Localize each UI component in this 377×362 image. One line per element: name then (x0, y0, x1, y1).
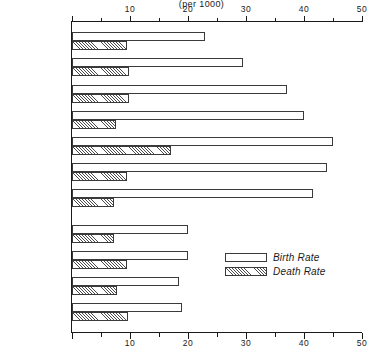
legend-swatch-birth-rate (225, 253, 267, 262)
legend-item-death-rate: Death Rate (225, 266, 326, 277)
legend-label-birth-rate: Birth Rate (273, 252, 319, 263)
bar-birth-rate (72, 225, 188, 234)
tick-label-top-40: 40 (299, 4, 309, 14)
legend-item-birth-rate: Birth Rate (225, 252, 326, 263)
bar-birth-rate (72, 251, 188, 260)
bar-death-rate (72, 67, 129, 76)
tick-bot-0 (72, 333, 73, 339)
tick-bot-15 (159, 333, 160, 337)
legend-label-death-rate: Death Rate (273, 266, 326, 277)
bar-chart: (per 1000) 10102020303040405050 Argentin… (0, 0, 377, 362)
tick-label-top-20: 20 (183, 4, 193, 14)
tick-top-40 (304, 16, 305, 22)
tick-label-top-10: 10 (125, 4, 135, 14)
tick-bot-35 (275, 333, 276, 337)
tick-top-0 (72, 16, 73, 22)
tick-top-30 (246, 16, 247, 22)
bar-death-rate (72, 312, 128, 321)
tick-top-20 (188, 16, 189, 22)
bar-death-rate (72, 172, 127, 181)
legend-swatch-death-rate (225, 267, 267, 276)
tick-label-bot-40: 40 (299, 338, 309, 348)
plot-area: 10102020303040405050 ArgentinaChileColom… (72, 22, 362, 332)
bar-birth-rate (72, 137, 333, 146)
bar-birth-rate (72, 189, 313, 198)
bar-death-rate (72, 94, 129, 103)
bar-birth-rate (72, 303, 182, 312)
bar-death-rate (72, 286, 117, 295)
tick-label-bot-10: 10 (125, 338, 135, 348)
chart-title: (per 1000) (13, 0, 377, 9)
tick-top-35 (275, 18, 276, 22)
tick-top-15 (159, 18, 160, 22)
tick-label-bot-30: 30 (241, 338, 251, 348)
tick-label-bot-20: 20 (183, 338, 193, 348)
bar-birth-rate (72, 277, 179, 286)
tick-top-50 (362, 16, 363, 22)
tick-bot-5 (101, 333, 102, 337)
tick-top-10 (130, 16, 131, 22)
tick-label-top-50: 50 (357, 4, 367, 14)
bar-birth-rate (72, 163, 327, 172)
bar-birth-rate (72, 111, 304, 120)
tick-bot-45 (333, 333, 334, 337)
tick-bot-25 (217, 333, 218, 337)
tick-label-top-30: 30 (241, 4, 251, 14)
bar-death-rate (72, 198, 114, 207)
bar-death-rate (72, 234, 114, 243)
chart-legend: Birth Rate Death Rate (225, 252, 326, 280)
bar-death-rate (72, 146, 171, 155)
bar-birth-rate (72, 32, 205, 41)
tick-label-bot-50: 50 (357, 338, 367, 348)
bar-birth-rate (72, 85, 287, 94)
bar-birth-rate (72, 58, 243, 67)
tick-top-5 (101, 18, 102, 22)
bar-death-rate (72, 260, 127, 269)
bar-death-rate (72, 120, 116, 129)
tick-top-25 (217, 18, 218, 22)
tick-top-45 (333, 18, 334, 22)
bar-death-rate (72, 41, 127, 50)
